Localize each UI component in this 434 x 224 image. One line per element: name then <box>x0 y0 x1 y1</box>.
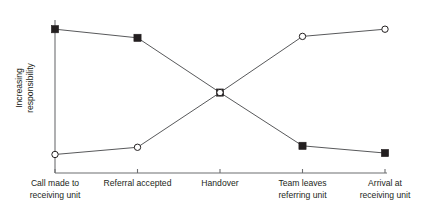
series-2 <box>52 26 388 158</box>
data-point-open-circle <box>382 26 388 32</box>
data-point-filled-square <box>51 26 58 33</box>
responsibility-transfer-chart: Increasing responsibility Call made tore… <box>0 0 434 224</box>
data-point-open-circle <box>217 89 223 95</box>
series-layer <box>51 26 388 158</box>
x-axis-tick-labels: Call made toreceiving unitReferral accep… <box>0 178 434 222</box>
data-point-open-circle <box>134 144 140 150</box>
x-axis-tick-label-5: Arrival atreceiving unit <box>333 178 434 201</box>
data-point-open-circle <box>299 33 305 39</box>
x-axis-tick-label-line: receiving unit <box>333 190 434 202</box>
data-point-open-circle <box>52 151 58 157</box>
x-axis-tick-label-line: Arrival at <box>333 178 434 190</box>
data-point-filled-square <box>134 34 141 41</box>
data-point-filled-square <box>299 142 306 149</box>
x-axis-tick-label-line: receiving unit <box>3 190 107 202</box>
data-point-filled-square <box>381 149 388 156</box>
